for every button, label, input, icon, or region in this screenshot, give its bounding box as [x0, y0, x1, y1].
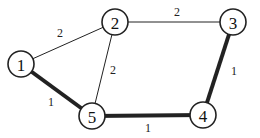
node-label: 4	[199, 107, 208, 126]
edge-1-2	[21, 22, 115, 64]
edge-5-4	[92, 115, 203, 116]
node-label: 5	[88, 108, 97, 127]
node-4: 4	[190, 102, 216, 128]
node-2: 2	[102, 9, 128, 35]
edge-label-2-3: 2	[174, 5, 180, 19]
edge-label-4-3: 1	[231, 64, 237, 78]
node-1: 1	[8, 51, 34, 77]
node-label: 2	[111, 14, 120, 33]
node-5: 5	[79, 103, 105, 129]
edge-label-5-4: 1	[145, 121, 151, 135]
edge-label-1-5: 1	[48, 95, 54, 109]
edge-4-3	[203, 22, 233, 115]
edge-label-2-5: 2	[110, 63, 116, 77]
node-label: 1	[17, 56, 26, 75]
graph-diagram: 2 2 2 1 1 1 1 2 3 4 5	[0, 0, 260, 138]
node-3: 3	[220, 9, 246, 35]
edge-label-1-2: 2	[57, 26, 63, 40]
node-label: 3	[229, 14, 238, 33]
